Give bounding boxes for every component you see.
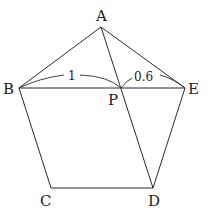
segment-AB [19,27,101,88]
label-A: A [95,7,107,25]
arc-BP [19,75,64,88]
measure-PE: 0.6 [134,70,153,84]
label-D: D [148,192,160,210]
pentagon-diagram: 1 0.6 A B E P C D [0,0,213,214]
segment-DE [153,88,185,188]
label-B: B [3,80,14,98]
arc-PE-left [121,78,132,88]
label-E: E [188,80,199,98]
label-C: C [40,192,51,210]
arc-BP-right [80,75,121,88]
segment-BC [19,88,51,188]
label-P: P [108,91,118,109]
arc-PE-right [160,75,185,88]
measure-BP: 1 [68,69,76,83]
